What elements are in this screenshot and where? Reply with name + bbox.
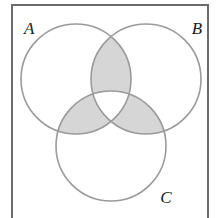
venn-diagram-canvas: A B C [0,0,221,218]
set-label-c: C [160,188,172,207]
venn-diagram-figure: A B C [0,0,221,218]
set-label-a: A [23,19,35,38]
set-label-b: B [192,19,203,38]
